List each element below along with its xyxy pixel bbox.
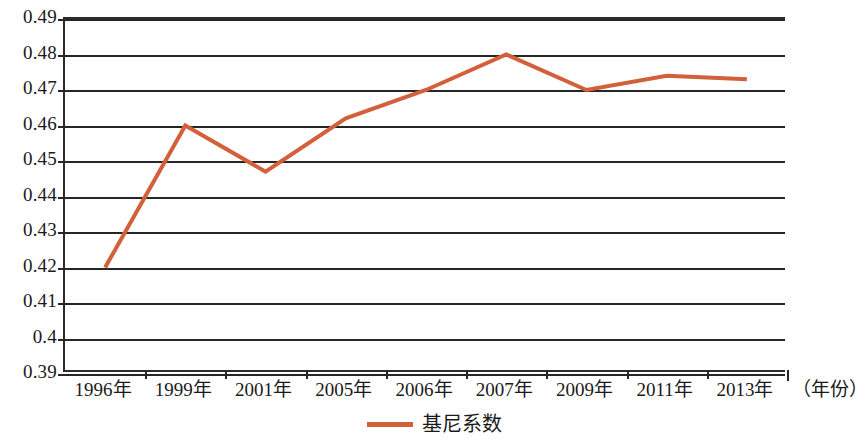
gridline-0.39 (65, 374, 785, 376)
gridline-0.47 (65, 90, 785, 92)
x-axis-label-2009年: 2009年 (556, 378, 613, 402)
gini-coefficient-line-chart: 0.490.480.470.460.450.440.430.420.410.40… (0, 0, 868, 440)
gridline-0.42 (65, 268, 785, 270)
plot-area (63, 17, 785, 372)
y-tick-0.47 (58, 90, 65, 92)
x-axis-label-2006年: 2006年 (396, 378, 453, 402)
legend-label-gini: 基尼系数 (422, 412, 502, 436)
y-axis-label-0.45: 0.45 (1, 149, 57, 168)
x-tick-9 (787, 370, 789, 381)
y-tick-0.43 (58, 232, 65, 234)
y-axis-labels: 0.490.480.470.460.450.440.430.420.410.40… (0, 0, 57, 440)
y-axis-label-0.44: 0.44 (1, 185, 57, 204)
gridline-0.45 (65, 161, 785, 163)
y-axis-label-0.41: 0.41 (1, 291, 57, 310)
gridline-0.41 (65, 303, 785, 305)
gridline-0.4 (65, 339, 785, 341)
x-axis-label-2007年: 2007年 (476, 378, 533, 402)
gridline-0.49 (65, 19, 785, 21)
chart-legend: 基尼系数 (0, 408, 868, 440)
x-axis-label-2005年: 2005年 (315, 378, 372, 402)
gridline-0.46 (65, 126, 785, 128)
x-axis-label-1996年: 1996年 (75, 378, 132, 402)
x-axis-label-1999年: 1999年 (155, 378, 212, 402)
y-tick-0.4 (58, 339, 65, 341)
y-tick-0.49 (58, 19, 65, 21)
x-axis-labels: 1996年1999年2001年2005年2006年2007年2009年2011年… (63, 378, 785, 408)
x-axis-label-2011年: 2011年 (637, 378, 693, 402)
y-axis-label-0.47: 0.47 (1, 78, 57, 97)
y-axis-label-0.39: 0.39 (1, 362, 57, 381)
y-axis-label-0.42: 0.42 (1, 256, 57, 275)
x-axis-label-2013年: 2013年 (716, 378, 773, 402)
gridline-0.48 (65, 55, 785, 57)
y-tick-0.48 (58, 55, 65, 57)
y-tick-0.41 (58, 303, 65, 305)
y-tick-0.39 (58, 374, 65, 376)
gridline-0.44 (65, 197, 785, 199)
y-axis-label-0.4: 0.4 (1, 327, 57, 346)
x-axis-label-2001年: 2001年 (235, 378, 292, 402)
legend-swatch-gini (367, 422, 413, 427)
y-axis-label-0.48: 0.48 (1, 43, 57, 62)
y-tick-0.42 (58, 268, 65, 270)
y-tick-0.46 (58, 126, 65, 128)
y-axis-label-0.46: 0.46 (1, 114, 57, 133)
y-tick-0.44 (58, 197, 65, 199)
gridline-0.43 (65, 232, 785, 234)
y-axis-label-0.49: 0.49 (1, 7, 57, 26)
y-tick-0.45 (58, 161, 65, 163)
y-axis-label-0.43: 0.43 (1, 220, 57, 239)
x-axis-title: （年份） (792, 378, 868, 402)
